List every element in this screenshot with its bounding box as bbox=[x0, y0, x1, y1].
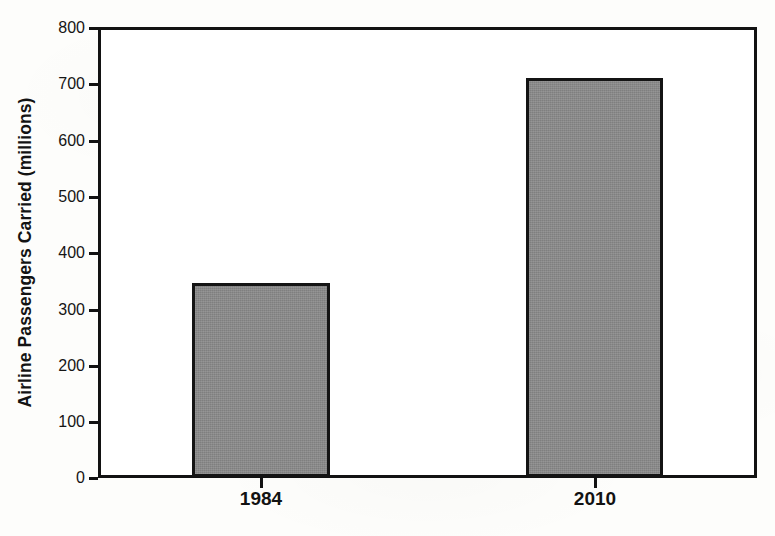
y-tick-label-0: 0 bbox=[76, 470, 85, 486]
y-tick-mark-700 bbox=[89, 83, 98, 86]
y-tick-mark-600 bbox=[89, 140, 98, 143]
y-tick-label-300: 300 bbox=[58, 302, 85, 318]
y-tick-label-400: 400 bbox=[58, 245, 85, 261]
y-tick-label-600: 600 bbox=[58, 133, 85, 149]
y-tick-label-100: 100 bbox=[58, 414, 85, 430]
y-tick-label-200: 200 bbox=[58, 358, 85, 374]
x-tick-mark-2010 bbox=[594, 478, 597, 488]
y-tick-mark-500 bbox=[89, 196, 98, 199]
y-tick-mark-0 bbox=[89, 477, 98, 480]
y-tick-mark-100 bbox=[89, 421, 98, 424]
y-tick-mark-400 bbox=[89, 252, 98, 255]
y-tick-label-800: 800 bbox=[58, 20, 85, 36]
y-axis-title: Airline Passengers Carried (millions) bbox=[8, 27, 42, 478]
y-tick-mark-800 bbox=[89, 27, 98, 30]
bar-2010 bbox=[526, 78, 663, 477]
y-tick-label-700: 700 bbox=[58, 76, 85, 92]
x-tick-mark-1984 bbox=[260, 478, 263, 488]
bar-chart-figure: Airline Passengers Carried (millions) 80… bbox=[0, 0, 775, 536]
y-tick-label-500: 500 bbox=[58, 189, 85, 205]
x-tick-label-1984: 1984 bbox=[240, 488, 282, 510]
y-tick-mark-300 bbox=[89, 309, 98, 312]
y-tick-mark-200 bbox=[89, 365, 98, 368]
bar-1984 bbox=[192, 283, 330, 477]
x-tick-label-2010: 2010 bbox=[574, 488, 616, 510]
